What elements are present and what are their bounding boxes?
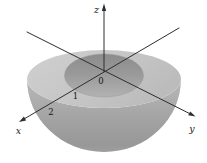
hemispherical-shell-diagram: z x y 0 1 2 <box>0 0 207 163</box>
z-axis-arrowhead <box>102 4 106 12</box>
figure-canvas: z x y 0 1 2 <box>0 0 207 163</box>
x-axis-label: x <box>16 125 22 136</box>
tick-label-outer-radius: 2 <box>48 107 53 117</box>
y-axis-arrowhead <box>188 111 195 116</box>
origin-label: 0 <box>98 76 103 86</box>
y-axis-label: y <box>188 123 195 134</box>
x-axis-arrowhead <box>19 117 26 122</box>
z-axis-label: z <box>93 4 100 15</box>
tick-label-inner-radius: 1 <box>73 91 78 101</box>
